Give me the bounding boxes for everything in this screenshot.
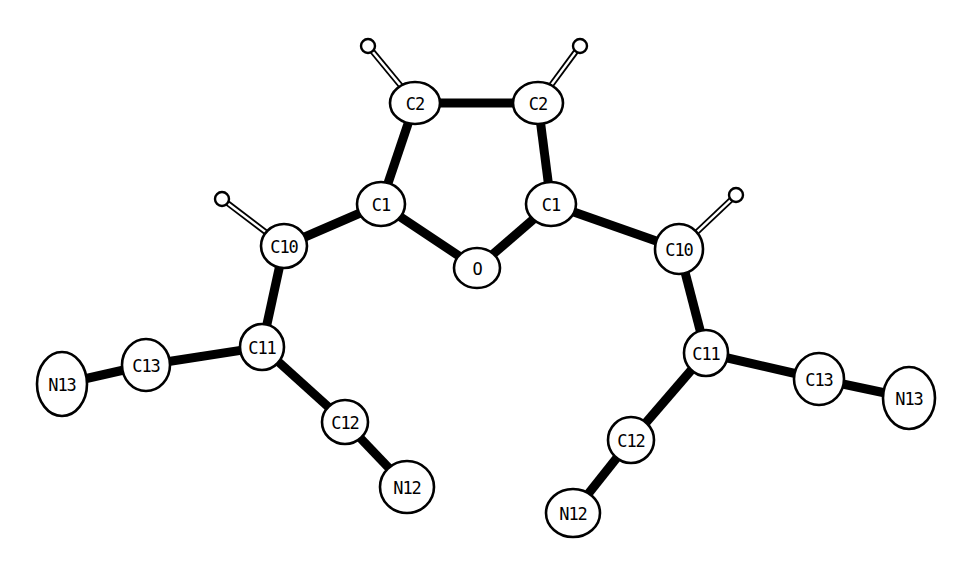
atom-label: C13 xyxy=(132,356,160,376)
hydrogen-bonds xyxy=(228,51,731,236)
atom-label: N12 xyxy=(559,504,587,524)
atom-label: N13 xyxy=(895,389,923,409)
atom-N13b: N13 xyxy=(883,367,935,429)
h-bond-fill xyxy=(692,200,731,237)
atom-N12b: N12 xyxy=(546,489,600,537)
atom-C10a: C10 xyxy=(261,224,307,268)
atom-N13a: N13 xyxy=(37,352,87,416)
atom-C2b: C2 xyxy=(513,82,563,124)
atom-label: C12 xyxy=(331,413,359,433)
molecule-diagram: C2C2C1C1OC10C10C11C11C13C13N13N13C12C12N… xyxy=(0,0,966,564)
atom-C12b: C12 xyxy=(608,417,654,463)
atom-label: C1 xyxy=(542,195,561,215)
atom-label: C12 xyxy=(617,431,645,451)
atom-label: C11 xyxy=(692,344,720,364)
atom-C10b: C10 xyxy=(655,224,703,274)
atom-label: O xyxy=(472,259,482,279)
atom-label: C2 xyxy=(406,94,424,114)
atoms: C2C2C1C1OC10C10C11C11C13C13N13N13C12C12N… xyxy=(37,82,935,537)
hydrogen-atom-H2b xyxy=(573,39,587,53)
atom-C13a: C13 xyxy=(122,339,170,391)
atom-C2a: C2 xyxy=(390,82,440,124)
atom-label: C13 xyxy=(805,370,833,390)
atom-label: N13 xyxy=(48,375,76,395)
atom-N12a: N12 xyxy=(380,461,434,513)
atom-C1b: C1 xyxy=(526,182,576,226)
atom-C13b: C13 xyxy=(794,353,844,405)
atom-label: C1 xyxy=(372,195,391,215)
hydrogen-atom-H10a xyxy=(215,192,229,206)
atom-label: C11 xyxy=(248,338,276,358)
atom-C11b: C11 xyxy=(684,330,728,376)
atom-label: C10 xyxy=(665,240,693,260)
atom-label: C2 xyxy=(529,94,547,114)
atom-label: N12 xyxy=(393,478,421,498)
atom-O: O xyxy=(454,248,500,288)
atom-C12a: C12 xyxy=(322,400,368,444)
hydrogen-atom-H10b xyxy=(729,188,743,202)
hydrogen-atom-H2a xyxy=(361,39,375,53)
h-bond-fill xyxy=(228,203,270,235)
h-bond-fill xyxy=(549,52,576,89)
h-bond-fill xyxy=(372,51,403,89)
atom-label: C10 xyxy=(270,237,298,257)
atom-C11a: C11 xyxy=(240,324,284,370)
atom-C1a: C1 xyxy=(357,182,405,226)
hydrogen-atoms xyxy=(215,39,743,206)
bonds xyxy=(62,103,909,513)
